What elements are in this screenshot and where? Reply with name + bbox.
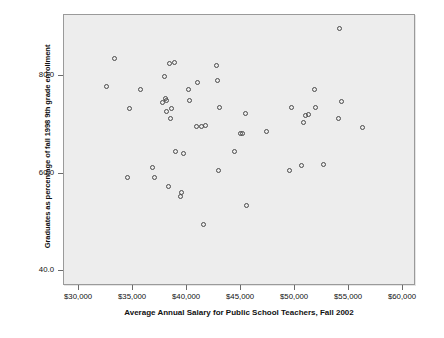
data-point xyxy=(287,168,292,173)
y-axis-tick-label: 60.0 xyxy=(14,168,54,177)
x-axis-tick-label: $50,000 xyxy=(264,292,324,301)
data-point xyxy=(127,106,132,111)
data-point xyxy=(179,190,184,195)
data-point xyxy=(215,78,220,83)
x-axis-tick-mark xyxy=(240,285,241,290)
x-axis-tick-mark xyxy=(294,285,295,290)
data-point xyxy=(299,163,304,168)
data-point xyxy=(203,123,208,128)
data-point xyxy=(312,87,317,92)
data-point xyxy=(166,184,171,189)
scatter-plot-figure: Graduates as percentage of fall 1998 9th… xyxy=(0,0,444,338)
data-point xyxy=(336,116,341,121)
data-point xyxy=(289,105,294,110)
data-point xyxy=(164,98,169,103)
data-point xyxy=(201,222,206,227)
x-axis-tick-mark xyxy=(186,285,187,290)
data-point xyxy=(152,175,157,180)
data-point xyxy=(214,63,219,68)
data-point xyxy=(104,84,109,89)
x-axis-tick-label: $60,000 xyxy=(372,292,432,301)
x-axis-tick-mark xyxy=(402,285,403,290)
data-point xyxy=(195,80,200,85)
data-point xyxy=(187,98,192,103)
data-point xyxy=(125,175,130,180)
data-point xyxy=(306,112,311,117)
data-point xyxy=(172,60,177,65)
data-point xyxy=(264,129,269,134)
x-axis-tick-label: $55,000 xyxy=(318,292,378,301)
data-point xyxy=(244,203,249,208)
data-point xyxy=(181,151,186,156)
x-axis-tick-mark xyxy=(78,285,79,290)
data-point xyxy=(232,149,237,154)
data-point xyxy=(240,131,245,136)
data-point xyxy=(173,149,178,154)
data-point xyxy=(301,120,306,125)
x-axis-tick-label: $35,000 xyxy=(102,292,162,301)
data-point xyxy=(150,165,155,170)
data-point xyxy=(112,56,117,61)
x-axis-tick-label: $40,000 xyxy=(156,292,216,301)
data-points-layer xyxy=(64,15,414,284)
data-point xyxy=(339,99,344,104)
data-point xyxy=(164,109,169,114)
data-point xyxy=(217,105,222,110)
data-point xyxy=(216,168,221,173)
x-axis-tick-label: $30,000 xyxy=(48,292,108,301)
plot-area xyxy=(63,14,415,285)
y-axis-tick-label: 80.0 xyxy=(14,70,54,79)
x-axis-tick-label: $45,000 xyxy=(210,292,270,301)
data-point xyxy=(243,111,248,116)
data-point xyxy=(162,74,167,79)
y-axis-tick-label: 40.0 xyxy=(14,265,54,274)
data-point xyxy=(168,116,173,121)
data-point xyxy=(186,87,191,92)
data-point xyxy=(313,105,318,110)
y-axis-title: Graduates as percentage of fall 1998 9th… xyxy=(43,14,52,280)
data-point xyxy=(169,106,174,111)
data-point xyxy=(321,162,326,167)
x-axis-tick-mark xyxy=(348,285,349,290)
x-axis-title: Average Annual Salary for Public School … xyxy=(63,308,415,317)
x-axis-tick-mark xyxy=(132,285,133,290)
data-point xyxy=(360,125,365,130)
data-point xyxy=(138,87,143,92)
data-point xyxy=(337,26,342,31)
